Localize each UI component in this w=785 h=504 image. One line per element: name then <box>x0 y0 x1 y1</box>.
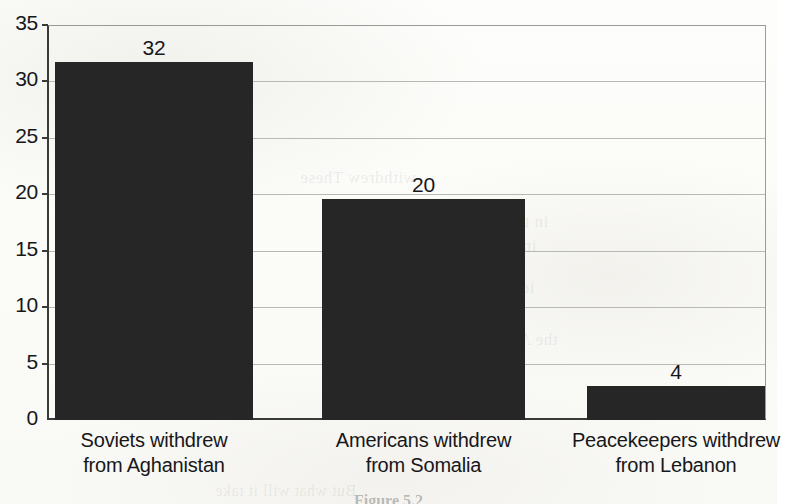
x-axis-category-label: Peacekeepers withdrewfrom Lebanon <box>565 428 785 478</box>
y-axis-tick-mark <box>42 24 48 26</box>
category-label-line-2: from Somalia <box>300 453 547 478</box>
x-axis-category-label: Soviets withdrewfrom Aghanistan <box>33 428 275 478</box>
y-axis-tick-label: 0 <box>0 406 38 430</box>
y-axis-tick-mark <box>42 363 48 365</box>
y-axis-tick-mark <box>42 137 48 139</box>
y-axis-tick-label: 5 <box>0 350 38 374</box>
bar-value-label: 4 <box>587 360 765 384</box>
category-label-line-2: from Aghanistan <box>33 453 275 478</box>
category-label-line-2: from Lebanon <box>565 453 785 478</box>
y-axis-tick-mark <box>42 250 48 252</box>
bar[interactable] <box>587 386 765 420</box>
figure-caption: Figure 5.2 <box>0 492 777 504</box>
category-label-line-1: Americans withdrew <box>336 429 511 451</box>
y-axis-tick-mark <box>42 193 48 195</box>
category-label-line-1: Soviets withdrew <box>81 429 228 451</box>
y-axis-tick-label: 20 <box>0 180 38 204</box>
y-axis-tick-label: 15 <box>0 237 38 261</box>
y-axis-tick-label: 30 <box>0 67 38 91</box>
y-axis-tick-mark <box>42 306 48 308</box>
bar-value-label: 20 <box>322 173 525 197</box>
category-label-line-1: Peacekeepers withdrew <box>572 429 780 451</box>
x-axis-category-label: Americans withdrewfrom Somalia <box>300 428 547 478</box>
bar-value-label: 32 <box>55 36 253 60</box>
y-axis-tick-mark <box>42 80 48 82</box>
y-axis-tick-label: 25 <box>0 124 38 148</box>
y-axis-tick-label: 10 <box>0 293 38 317</box>
bar[interactable] <box>322 199 525 420</box>
y-axis-tick-label: 35 <box>0 11 38 35</box>
bar[interactable] <box>55 62 253 420</box>
